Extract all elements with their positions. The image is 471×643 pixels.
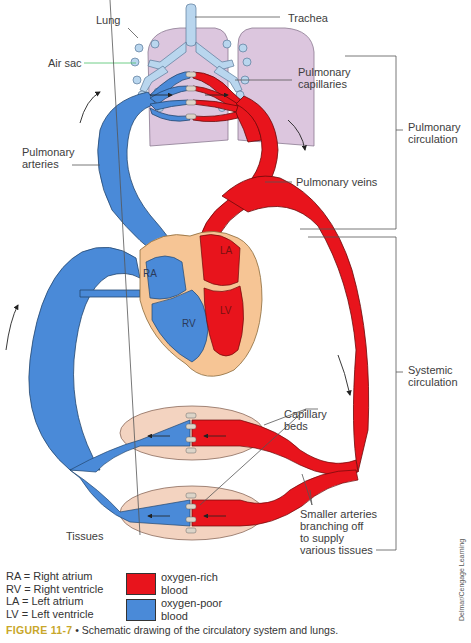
heart [140, 231, 262, 376]
caption-separator: • [72, 624, 82, 636]
pulmonary-arteries-label: Pulmonary arteries [22, 146, 75, 170]
caption-text: Schematic drawing of the circulatory sys… [82, 624, 338, 636]
capillary-beds-label: Capillary beds [284, 408, 327, 432]
legend-lv: LV = Left ventricle [6, 608, 103, 621]
air-sac-label: Air sac [48, 57, 82, 69]
legend-ra: RA = Right atrium [6, 570, 103, 583]
oxygen-poor-label: oxygen-poor blood [161, 597, 222, 622]
figure-number: FIGURE 11-7 [6, 624, 72, 636]
pulmonary-circulation-label: Pulmonary circulation [408, 121, 461, 145]
tissues-label: Tissues [66, 530, 104, 542]
oxygen-rich-label: oxygen-rich blood [161, 571, 218, 596]
lung-label: Lung [96, 14, 120, 26]
rv-label: RV [182, 318, 196, 329]
oxygen-poor-swatch [126, 599, 156, 621]
la-label: LA [220, 245, 232, 256]
legend-la: LA = Left atrium [6, 595, 103, 608]
smaller-arteries-label: Smaller arteries branching off to supply… [300, 508, 377, 556]
ra-label: RA [143, 268, 157, 279]
abbreviation-legend: RA = Right atrium RV = Right ventricle L… [6, 570, 103, 620]
systemic-circulation-label: Systemic circulation [408, 364, 458, 388]
trachea-label: Trachea [288, 12, 328, 24]
figure-caption: FIGURE 11-7 • Schematic drawing of the c… [6, 624, 338, 636]
pulmonary-capillaries-label: Pulmonary capillaries [298, 66, 351, 90]
credit-text: Delmar/Cengage Learning [458, 539, 465, 621]
pulmonary-veins-label: Pulmonary veins [296, 176, 377, 188]
oxygen-rich-swatch [126, 573, 156, 595]
lv-label: LV [220, 305, 232, 316]
legend-rv: RV = Right ventricle [6, 583, 103, 596]
circulatory-diagram [0, 0, 471, 643]
image-credit: Delmar/Cengage Learning [455, 540, 467, 620]
